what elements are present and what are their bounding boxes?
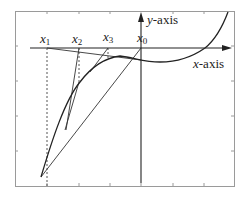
y-axis-arrow-icon	[138, 12, 144, 22]
tangent-line-x0	[41, 48, 141, 177]
x-axis-arrow-icon	[222, 45, 232, 51]
tangent-line-x1	[47, 48, 141, 60]
label-x1: x1	[39, 31, 50, 47]
label-x3: x3	[102, 29, 114, 45]
label-x0: x0	[136, 30, 148, 46]
newton-method-diagram: x1 x2 x3 x0 y-axis x-axis	[0, 0, 246, 199]
x-axis-label: x-axis	[192, 56, 224, 71]
label-x2: x2	[71, 31, 82, 47]
y-axis-label: y-axis	[145, 12, 178, 27]
function-curve	[41, 12, 228, 177]
